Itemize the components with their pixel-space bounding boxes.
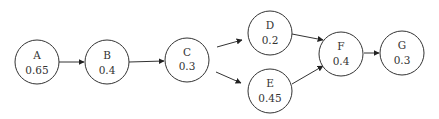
node-c: C 0.3	[165, 38, 209, 82]
edge-b-c	[129, 61, 164, 62]
node-b-label: B	[103, 49, 111, 61]
edge-c-e	[216, 72, 241, 83]
node-g-label: G	[398, 39, 406, 51]
node-f: F 0.4	[319, 32, 363, 76]
node-e: E 0.45	[248, 69, 292, 113]
node-e-label: E	[266, 77, 274, 89]
node-g-value: 0.3	[394, 54, 411, 66]
node-b-value: 0.4	[99, 64, 116, 76]
node-d-label: D	[266, 19, 274, 31]
edge-d-f	[292, 34, 323, 40]
node-c-label: C	[183, 46, 191, 58]
node-c-value: 0.3	[179, 60, 196, 72]
node-b: B 0.4	[85, 40, 129, 84]
node-g: G 0.3	[380, 31, 424, 75]
node-f-label: F	[337, 40, 344, 52]
node-a: A 0.65	[15, 40, 59, 84]
node-d: D 0.2	[248, 11, 292, 55]
edge-e-f	[292, 66, 323, 84]
node-e-value: 0.45	[258, 92, 281, 104]
node-a-value: 0.65	[25, 64, 48, 76]
edge-c-d	[217, 40, 242, 47]
node-f-value: 0.4	[333, 55, 350, 67]
node-a-label: A	[32, 49, 41, 61]
diagram-canvas: A 0.65 B 0.4 C 0.3 D 0.2 E 0.45 F 0.4 G …	[0, 0, 439, 119]
node-d-value: 0.2	[262, 34, 279, 46]
